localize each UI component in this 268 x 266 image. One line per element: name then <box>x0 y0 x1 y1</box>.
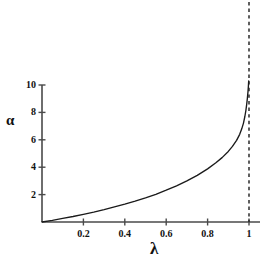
chart-plot-area <box>0 0 268 266</box>
axes-group <box>39 85 261 226</box>
y-tick-label-6: 6 <box>31 135 36 145</box>
y-tick-label-10: 10 <box>26 80 36 90</box>
x-tick-label-0.2: 0.2 <box>77 229 90 239</box>
y-axis-title: α <box>6 113 14 128</box>
x-tick-label-0.6: 0.6 <box>160 229 173 239</box>
x-tick-label-0.4: 0.4 <box>119 229 132 239</box>
y-tick-label-2: 2 <box>31 190 36 200</box>
y-tick-label-8: 8 <box>31 107 36 117</box>
alpha-curve-path <box>42 81 249 222</box>
chart-figure: α λ 2468100.20.40.60.81 <box>0 0 268 266</box>
x-axis-title: λ <box>150 240 158 257</box>
x-tick-label-1: 1 <box>247 229 252 239</box>
y-tick-label-4: 4 <box>31 162 36 172</box>
x-tick-label-0.8: 0.8 <box>201 229 214 239</box>
